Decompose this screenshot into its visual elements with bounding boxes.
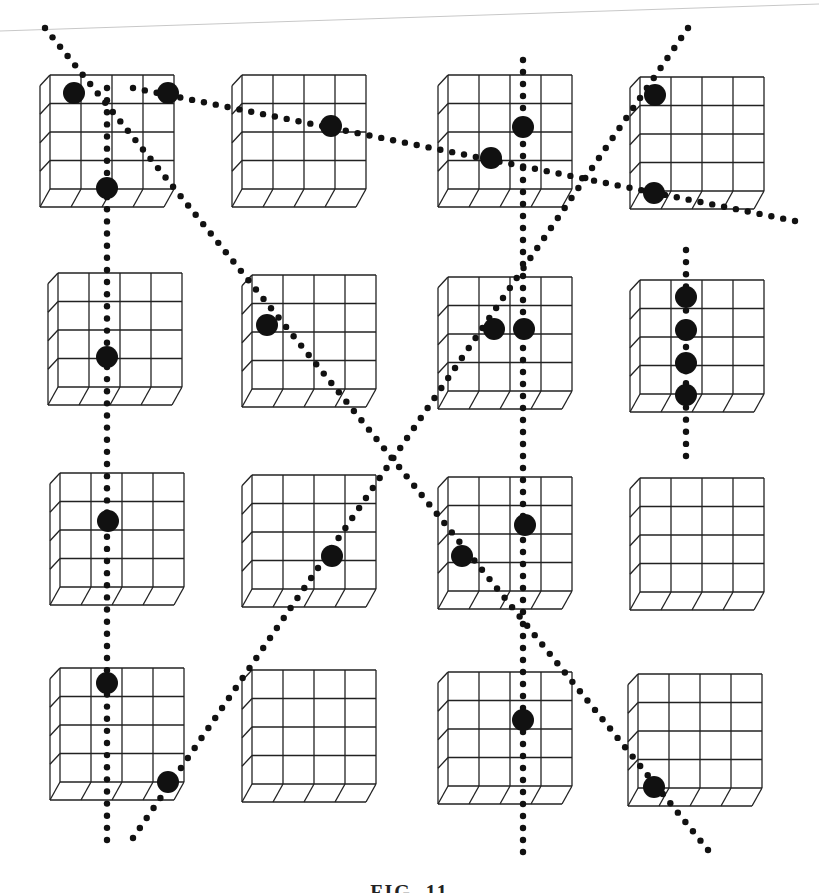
- game-board-r1c0: [48, 273, 182, 405]
- game-piece-r1c0: [96, 346, 118, 368]
- game-piece-r0c3: [643, 182, 665, 204]
- game-board-r2c0: [50, 473, 184, 605]
- game-piece-r0c1: [320, 115, 342, 137]
- game-piece-r3c0: [157, 771, 179, 793]
- game-piece-r0c2: [512, 116, 534, 138]
- game-piece-r0c0: [96, 177, 118, 199]
- game-board-r0c2: [438, 75, 572, 207]
- game-board-r1c3: [630, 280, 764, 412]
- dotted-line-ascending-diagonal: [130, 25, 691, 841]
- game-piece-r0c3: [644, 84, 666, 106]
- game-piece-r2c2: [451, 545, 473, 567]
- game-board-r1c1: [242, 275, 376, 407]
- game-piece-r0c2: [480, 147, 502, 169]
- game-piece-r1c3: [675, 384, 697, 406]
- game-piece-r2c0: [97, 510, 119, 532]
- game-piece-r0c0: [63, 82, 85, 104]
- game-piece-r3c0: [96, 672, 118, 694]
- game-piece-r1c2: [483, 318, 505, 340]
- game-piece-r3c2: [512, 709, 534, 731]
- game-piece-r1c3: [675, 319, 697, 341]
- game-board-r0c1: [232, 75, 366, 207]
- game-board-r2c3: [630, 478, 764, 610]
- game-piece-r0c0: [157, 82, 179, 104]
- game-piece-r1c1: [256, 314, 278, 336]
- game-piece-r1c2: [513, 318, 535, 340]
- game-board-r2c1: [242, 475, 376, 607]
- game-piece-r3c3: [643, 776, 665, 798]
- game-board-r3c1: [242, 670, 376, 802]
- game-piece-r1c3: [675, 286, 697, 308]
- game-piece-r2c2: [514, 514, 536, 536]
- game-piece-r1c3: [675, 352, 697, 374]
- figure-caption: FIG. 11: [0, 878, 819, 893]
- dotted-line-vertical-col3: [520, 57, 526, 855]
- game-board-r3c2: [438, 672, 572, 804]
- game-board-figure: [0, 0, 819, 893]
- game-piece-r2c1: [321, 545, 343, 567]
